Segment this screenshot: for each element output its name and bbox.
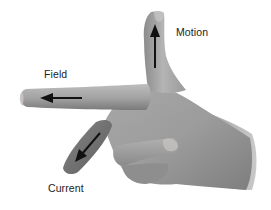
index-finger bbox=[20, 84, 151, 110]
current-label: Current bbox=[48, 182, 84, 194]
motion-label: Motion bbox=[176, 26, 208, 38]
hand-illustration bbox=[0, 0, 271, 210]
thumb bbox=[144, 11, 186, 93]
hand-diagram: Motion Field Current bbox=[0, 0, 271, 210]
field-label: Field bbox=[44, 68, 67, 80]
